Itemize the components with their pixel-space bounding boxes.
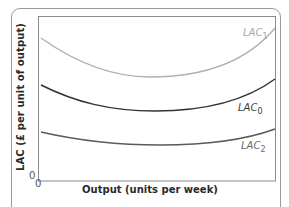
y-axis-label: LAC (£ per unit of output) xyxy=(15,23,26,171)
lac0-label-subscript: 0 xyxy=(257,107,262,116)
lac0-label: LAC0 xyxy=(238,102,263,116)
x-axis-label: Output (units per week) xyxy=(82,184,218,195)
origin-x-label: 0 xyxy=(35,178,41,189)
lac0-label-text: LAC xyxy=(238,102,257,113)
lac1-curve xyxy=(41,28,275,77)
lac2-label-subscript: 2 xyxy=(260,145,265,154)
lac1-label-subscript: 1 xyxy=(262,32,267,41)
lac1-label-text: LAC xyxy=(243,27,262,38)
lac1-label: LAC1 xyxy=(243,27,268,41)
lac2-curve xyxy=(41,129,275,145)
lac2-label: LAC2 xyxy=(241,140,266,154)
lac2-label-text: LAC xyxy=(241,140,260,151)
